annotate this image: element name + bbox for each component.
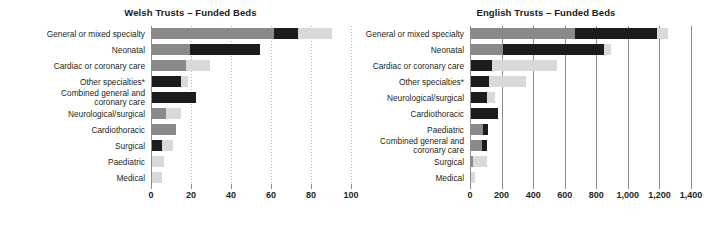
bar-row[interactable] [151,26,351,42]
bar-row[interactable] [151,74,351,90]
bar-segment[interactable] [152,28,274,39]
bar-segment[interactable] [186,60,210,71]
bar-segment[interactable] [604,44,610,55]
bar-segment[interactable] [190,44,260,55]
category-label-text: Combined general andcoronary care [380,137,464,154]
bar-segment[interactable] [473,156,487,167]
bar-row[interactable] [470,42,691,58]
bar-segment[interactable] [152,92,196,103]
x-tick-mark [502,184,503,189]
bar-segment[interactable] [471,28,575,39]
bar-segment[interactable] [657,28,668,39]
bar-segment[interactable] [152,44,190,55]
bar-row[interactable] [151,106,351,122]
bar-segment[interactable] [575,28,657,39]
category-label: Cardiothoracic [0,122,149,138]
plot-area-english [470,26,691,186]
x-tick-mark [191,184,192,189]
bar-rows [151,26,351,186]
bar-row[interactable] [470,90,691,106]
category-label: Surgical [0,138,149,154]
bar-segment[interactable] [181,76,188,87]
category-label: Combined general andcoronary care [340,138,468,154]
bar-row[interactable] [470,138,691,154]
bar-row[interactable] [151,154,351,170]
category-label-text: Other specialties* [80,78,145,87]
category-label-text: Combined general andcoronary care [61,89,145,106]
x-tick-mark [470,184,471,189]
bar-segment[interactable] [152,76,181,87]
category-label: Cardiothoracic [340,106,468,122]
x-tick-mark [271,184,272,189]
x-tick-label: 800 [589,190,604,200]
category-label-text: Paediatric [108,158,145,167]
category-label: Paediatric [0,154,149,170]
category-label-text: Cardiothoracic [411,110,465,119]
bar-row[interactable] [470,74,691,90]
x-tick-mark [628,184,629,189]
bar-segment[interactable] [471,172,475,183]
category-label-text: Other specialties* [399,78,464,87]
bar-segment[interactable] [471,108,498,119]
category-label-text: Neonatal [112,46,145,55]
bar-row[interactable] [470,26,691,42]
bar-segment[interactable] [152,172,162,183]
bar-row[interactable] [151,90,351,106]
category-label: Neonatal [340,42,468,58]
x-tick-label: 1,400 [680,190,703,200]
bar-segment[interactable] [298,28,332,39]
category-label-text: General or mixed specialty [366,30,464,39]
category-label: Surgical [340,154,468,170]
bar-segment[interactable] [487,92,496,103]
bar-row[interactable] [151,42,351,58]
x-tick-mark [533,184,534,189]
category-label: Medical [0,170,149,186]
bar-row[interactable] [151,138,351,154]
bar-segment[interactable] [471,44,503,55]
bar-row[interactable] [470,170,691,186]
bar-segment[interactable] [492,60,558,71]
category-label: Cardiac or coronary care [340,58,468,74]
bar-row[interactable] [151,170,351,186]
category-label-text: Medical [116,174,145,183]
bar-row[interactable] [151,58,351,74]
category-label: Neurological/surgical [340,90,468,106]
bar-rows [470,26,691,186]
category-label-text: Neurological/surgical [387,94,464,103]
x-tick-mark [565,184,566,189]
x-tick-label: 20 [186,190,196,200]
bar-segment[interactable] [166,108,181,119]
bar-segment[interactable] [152,124,176,135]
category-label: Neurological/surgical [0,106,149,122]
bar-segment[interactable] [471,76,489,87]
bar-row[interactable] [470,122,691,138]
category-label-text: General or mixed specialty [47,30,145,39]
bar-segment[interactable] [471,60,492,71]
bar-row[interactable] [470,106,691,122]
bar-segment[interactable] [152,140,162,151]
bar-segment[interactable] [152,60,186,71]
bar-segment[interactable] [471,92,487,103]
bar-row[interactable] [470,154,691,170]
bar-segment[interactable] [503,44,605,55]
bar-segment[interactable] [274,28,298,39]
bar-row[interactable] [151,122,351,138]
category-labels-english: General or mixed specialtyNeonatalCardia… [340,26,468,186]
plot-area-welsh [151,26,351,186]
bar-segment[interactable] [152,108,166,119]
bar-segment[interactable] [162,140,173,151]
bar-segment[interactable] [483,124,489,135]
bar-segment[interactable] [152,156,164,167]
x-tick-mark [231,184,232,189]
bar-segment[interactable] [471,140,482,151]
category-label-text: Surgical [115,142,145,151]
x-tick-label: 400 [526,190,541,200]
category-label-text: Surgical [434,158,464,167]
bar-segment[interactable] [489,76,526,87]
bar-row[interactable] [470,58,691,74]
chart-panel-welsh: Welsh Trusts – Funded Beds General or mi… [0,0,363,232]
x-tick-label: 100 [343,190,358,200]
bar-segment[interactable] [471,124,483,135]
bar-segment[interactable] [482,140,487,151]
category-label: Neonatal [0,42,149,58]
